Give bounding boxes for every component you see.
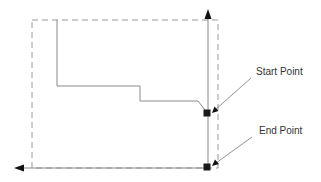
end-point-label: End Point: [259, 125, 303, 136]
end-point-marker: [204, 164, 211, 171]
start-point-label: Start Point: [256, 66, 303, 77]
start-point-marker: [204, 110, 211, 117]
dashed-boundary: [32, 20, 218, 168]
stepped-path: [57, 20, 205, 110]
path-diagram: Start Point End Point: [0, 0, 321, 182]
arrow-up-icon: [205, 9, 212, 19]
arrow-left-icon: [14, 165, 24, 172]
end-point-leader: [216, 137, 252, 163]
start-point-leader: [215, 78, 251, 110]
